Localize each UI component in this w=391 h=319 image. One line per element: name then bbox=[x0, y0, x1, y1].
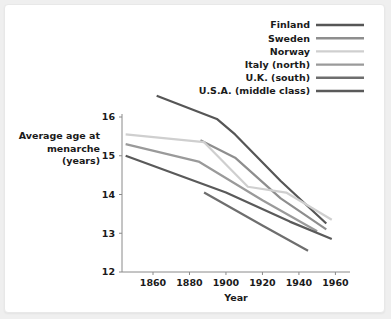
y-tick-label-1: 13 bbox=[102, 228, 115, 239]
chart-figure: FinlandSwedenNorwayItaly (north)U.K. (so… bbox=[0, 0, 391, 319]
menarche-age-line-chart: FinlandSwedenNorwayItaly (north)U.K. (so… bbox=[0, 0, 391, 319]
legend-label-5: U.S.A. (middle class) bbox=[199, 85, 310, 96]
y-tick-label-4: 16 bbox=[102, 111, 116, 122]
legend-label-1: Sweden bbox=[268, 33, 310, 44]
series-line-sweden bbox=[200, 140, 326, 229]
x-tick-label-3: 1920 bbox=[249, 277, 276, 288]
y-tick-label-2: 14 bbox=[102, 189, 116, 200]
legend-label-3: Italy (north) bbox=[245, 59, 310, 70]
series-line-finland bbox=[157, 96, 327, 224]
legend-label-0: Finland bbox=[270, 19, 310, 30]
legend-label-4: U.K. (south) bbox=[245, 72, 310, 83]
x-axis-title: Year bbox=[223, 292, 248, 303]
legend-label-2: Norway bbox=[270, 46, 311, 57]
y-axis-title-line-0: Average age at bbox=[19, 130, 101, 141]
y-tick-label-3: 15 bbox=[102, 150, 115, 161]
x-tick-label-2: 1900 bbox=[213, 277, 240, 288]
x-tick-label-4: 1940 bbox=[286, 277, 313, 288]
x-tick-label-0: 1860 bbox=[140, 277, 167, 288]
y-tick-label-0: 12 bbox=[102, 266, 115, 277]
x-tick-label-5: 1960 bbox=[322, 277, 349, 288]
chart-series bbox=[126, 96, 332, 251]
chart-legend: FinlandSwedenNorwayItaly (north)U.K. (so… bbox=[199, 19, 364, 96]
x-tick-label-1: 1880 bbox=[176, 277, 203, 288]
y-axis-title-line-2: (years) bbox=[62, 155, 100, 166]
y-axis-title-line-1: menarche bbox=[47, 143, 100, 154]
